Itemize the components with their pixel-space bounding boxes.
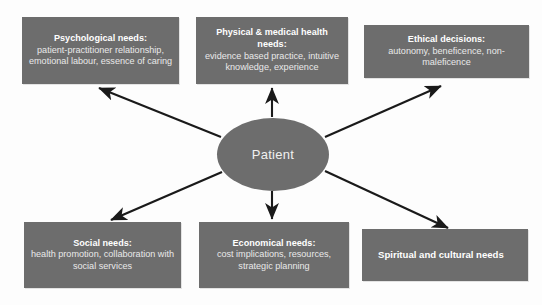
node-economical-needs-body: cost implications, resources, strategic … — [205, 249, 343, 272]
connector-patient-to-social — [111, 172, 222, 220]
diagram-canvas: Psychological needs: patient-practitione… — [0, 0, 542, 305]
node-physical-medical-health-needs[interactable]: Physical & medical health needs: evidenc… — [196, 17, 348, 84]
node-ethical-decisions-lead: Ethical decisions: — [408, 34, 485, 44]
node-physical-medical-health-needs-lead: Physical & medical health needs: — [216, 27, 328, 49]
node-economical-needs[interactable]: Economical needs: cost implications, res… — [199, 222, 349, 288]
node-social-needs-lead: Social needs: — [73, 238, 132, 248]
node-social-needs[interactable]: Social needs: health promotion, collabor… — [24, 222, 181, 288]
node-spiritual-cultural-needs-lead: Spiritual and cultural needs — [378, 249, 504, 260]
node-social-needs-body: health promotion, collaboration with soc… — [30, 249, 175, 272]
node-physical-medical-health-needs-body: evidence based practice, intuitive knowl… — [202, 51, 342, 74]
node-ethical-decisions-body: autonomy, beneficence, non-maleficence — [370, 46, 523, 69]
node-spiritual-cultural-needs[interactable]: Spiritual and cultural needs — [362, 229, 528, 281]
connector-patient-to-psychological — [99, 88, 221, 137]
connector-patient-to-ethical — [325, 86, 441, 137]
node-psychological-needs-body: patient-practitioner relationship, emoti… — [28, 45, 173, 68]
center-node-patient[interactable]: Patient — [217, 118, 329, 191]
connector-patient-to-spiritual — [325, 171, 448, 228]
node-ethical-decisions[interactable]: Ethical decisions: autonomy, beneficence… — [364, 25, 529, 78]
node-psychological-needs[interactable]: Psychological needs: patient-practitione… — [22, 17, 179, 84]
node-psychological-needs-lead: Psychological needs: — [54, 33, 147, 43]
node-economical-needs-lead: Economical needs: — [233, 238, 316, 248]
center-node-patient-label: Patient — [252, 147, 295, 162]
